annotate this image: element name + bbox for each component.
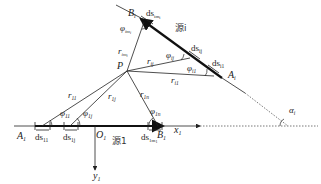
point-P: P (116, 60, 123, 71)
point-O1: O1 (96, 129, 106, 141)
label-rij: rij (147, 56, 154, 67)
label-ds1m1: ds1m1 (141, 132, 157, 144)
label-r1n: r1n (140, 89, 149, 100)
label-dsij: dsij (191, 43, 203, 54)
label-ri1: ri1 (171, 75, 179, 86)
label-phi1n: φ1n (150, 106, 161, 117)
label-phiij: φij (166, 50, 175, 61)
label-alphai: αi (289, 105, 296, 116)
point-Ai: Ai (227, 69, 236, 81)
point-B1: B1 (157, 129, 166, 141)
label-r1j: r1j (108, 91, 116, 102)
label-dsi1: dsi1 (212, 58, 225, 69)
arc-phi1n (149, 118, 153, 126)
label-phii1: φi1 (187, 63, 197, 74)
label-r11: r11 (68, 90, 77, 101)
label-ds11: ds11 (35, 132, 49, 143)
arc-phii1 (205, 69, 207, 76)
label-phiimi: φimi (120, 23, 131, 35)
label-phi1j: φ1j (83, 108, 93, 119)
diagram-canvas: P A1 O1 B1 x1 y1 Bi Ai 源1 源i r11 r1j r1n… (0, 0, 321, 184)
label-source1: 源1 (112, 136, 127, 146)
label-ds1j: ds1j (63, 132, 76, 143)
label-rimi: rimi (118, 46, 128, 58)
ray-r1j (70, 71, 127, 126)
label-phi11: φ11 (60, 108, 70, 119)
point-Bi: Bi (128, 7, 136, 19)
ray-rij (127, 58, 190, 71)
arc-phiimi (142, 26, 149, 29)
axis-y1: y1 (92, 170, 100, 182)
point-A1: A1 (16, 130, 26, 142)
label-sourcei: 源i (175, 23, 187, 33)
label-dsimi: dsimi (146, 8, 161, 20)
